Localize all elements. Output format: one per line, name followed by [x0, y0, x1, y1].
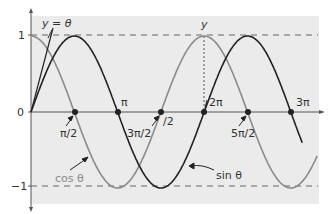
y-tick-1: 1 [18, 29, 25, 42]
half-fragment-label: /2 [163, 115, 174, 128]
point-2pi [201, 109, 207, 115]
y-axis-arrow-icon [29, 8, 33, 13]
y-axis-arrow-down-icon [29, 207, 33, 212]
peak-y-label: y [200, 18, 208, 31]
point-pi [115, 109, 121, 115]
point-pi-half [72, 109, 78, 115]
trig-graph: 1 0 −1 y = θ y π/2 π 3π/2 /2 2π 5π/2 3π … [0, 0, 329, 214]
point-5pi-half [245, 109, 251, 115]
three-pi-label: 3π [296, 96, 310, 109]
three-pi-half-label: 3π/2 [127, 127, 151, 140]
y-tick-neg1: −1 [11, 180, 27, 193]
sin-label: sin θ [216, 169, 242, 182]
y-tick-0: 0 [17, 106, 24, 119]
pi-half-label: π/2 [60, 127, 77, 140]
y-equals-theta-label: y = θ [41, 17, 72, 30]
cos-label: cos θ [55, 172, 84, 185]
two-pi-label: 2π [209, 96, 223, 109]
pi-label: π [121, 96, 128, 109]
x-axis-arrow-icon [319, 110, 325, 114]
five-pi-half-label: 5π/2 [231, 127, 255, 140]
point-3pi [288, 109, 294, 115]
